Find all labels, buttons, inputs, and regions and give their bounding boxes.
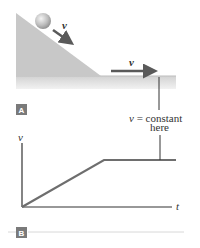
panel-b-label: B bbox=[19, 229, 25, 238]
y-axis-label: v bbox=[18, 131, 23, 143]
panel-a: v⃗ v⃗ A v = constant here bbox=[16, 13, 182, 133]
ground-velocity-label: v⃗ bbox=[129, 56, 142, 68]
annotation-line2: here bbox=[150, 121, 169, 133]
speed-curve bbox=[22, 160, 176, 207]
panel-b: v t B bbox=[8, 131, 184, 238]
ground bbox=[16, 76, 176, 89]
incline-velocity-label: v⃗ bbox=[62, 19, 75, 31]
incline bbox=[16, 13, 101, 76]
incline-velocity-arrow bbox=[53, 30, 70, 42]
panel-a-label: A bbox=[19, 106, 25, 115]
ball bbox=[35, 13, 51, 29]
x-axis-label: t bbox=[176, 200, 180, 212]
figure: v⃗ v⃗ A v = constant here v t B bbox=[0, 0, 200, 248]
